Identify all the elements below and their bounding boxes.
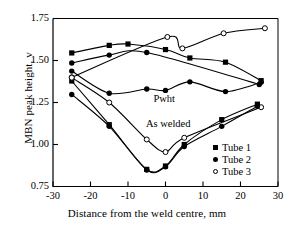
x-tick-label: 0 xyxy=(149,190,183,201)
series-tube-3-pwht xyxy=(69,26,267,80)
x-tick-label: 20 xyxy=(224,190,258,201)
y-tick-label: 1.00 xyxy=(15,138,49,149)
legend-marker-filled-square-icon xyxy=(213,145,218,150)
data-point-open-circle xyxy=(107,100,112,105)
data-point-open-circle xyxy=(180,46,185,51)
data-point-filled-circle xyxy=(187,79,192,84)
data-point-filled-circle xyxy=(258,80,263,85)
data-point-filled-circle xyxy=(182,144,187,149)
x-tick-label: 10 xyxy=(186,190,220,201)
x-axis-label: Distance from the weld centre, mm xyxy=(0,207,294,219)
data-point-filled-circle xyxy=(163,164,168,169)
legend-label: Tube 3 xyxy=(222,166,251,177)
legend-label: Tube 2 xyxy=(222,154,251,165)
data-point-filled-circle xyxy=(144,167,149,172)
data-point-open-circle xyxy=(221,31,226,36)
data-point-open-circle xyxy=(182,135,187,140)
data-point-filled-circle xyxy=(107,91,112,96)
data-point-filled-square xyxy=(125,41,130,46)
data-point-filled-circle xyxy=(144,86,149,91)
data-point-filled-circle xyxy=(223,89,228,94)
data-point-filled-circle xyxy=(219,124,224,129)
data-point-filled-circle xyxy=(107,124,112,129)
chart-legend: Tube 1Tube 2Tube 3 xyxy=(213,141,251,177)
legend-label: Tube 1 xyxy=(222,142,251,153)
legend-marker-open-circle-icon xyxy=(213,169,218,174)
x-tick-label: 30 xyxy=(261,190,294,201)
annotation-pwht: Pwht xyxy=(153,93,175,104)
data-point-open-circle xyxy=(69,75,74,80)
data-point-filled-circle xyxy=(144,50,149,55)
y-tick-label: 1.25 xyxy=(15,96,49,107)
series-tube-2-pwht xyxy=(69,50,262,87)
y-tick-label: 1.75 xyxy=(15,12,49,23)
data-point-filled-circle xyxy=(255,103,260,108)
y-tick-label: 1.50 xyxy=(15,54,49,65)
legend-item-tube-1: Tube 1 xyxy=(213,141,251,153)
x-tick-label: -30 xyxy=(36,190,70,201)
legend-item-tube-2: Tube 2 xyxy=(213,153,251,165)
x-tick-label: -20 xyxy=(74,190,108,201)
data-point-filled-circle xyxy=(69,68,74,73)
legend-marker-filled-circle-icon xyxy=(213,157,218,162)
data-point-filled-square xyxy=(69,50,74,55)
data-point-filled-square xyxy=(187,55,192,60)
data-point-filled-square xyxy=(107,43,112,48)
data-point-open-circle xyxy=(163,150,168,155)
data-point-open-circle xyxy=(165,34,170,39)
data-point-filled-circle xyxy=(69,92,74,97)
series-line xyxy=(72,51,260,85)
data-point-open-circle xyxy=(262,26,267,31)
data-point-filled-circle xyxy=(107,52,112,57)
series-tube-2-pwht-flat xyxy=(69,68,264,96)
data-point-filled-square xyxy=(223,60,228,65)
data-point-open-circle xyxy=(144,137,149,142)
x-tick-label: -10 xyxy=(111,190,145,201)
data-point-filled-square xyxy=(163,47,168,52)
chart-figure: MBN peak height, v Distance from the wel… xyxy=(0,0,294,229)
data-point-filled-circle xyxy=(69,60,74,65)
annotation-as-welded: As welded xyxy=(146,118,191,129)
legend-item-tube-3: Tube 3 xyxy=(213,165,251,177)
